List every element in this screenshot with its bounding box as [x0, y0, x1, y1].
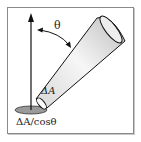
- normal-arrow-icon: [28, 13, 34, 110]
- angle-label: θ: [54, 19, 61, 32]
- beam-cone: [35, 13, 126, 111]
- cone-area-label: ΔA: [40, 85, 55, 96]
- projected-area-label: ΔA/cosθ: [16, 116, 57, 127]
- solid-angle-diagram: θ ΔA ΔA/cosθ: [0, 0, 141, 142]
